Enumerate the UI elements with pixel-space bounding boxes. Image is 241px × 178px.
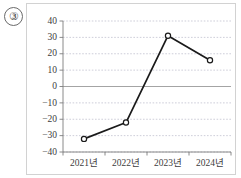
y-axis-ticks-group: 403020100−10−20−30−40	[42, 16, 63, 157]
y-axis-tick-label: 10	[48, 65, 58, 75]
data-point-marker	[165, 33, 170, 38]
x-axis-tick-label: 2024년	[196, 158, 224, 168]
data-series-group	[84, 36, 210, 139]
gridlines-group	[63, 21, 231, 152]
x-axis-tick-label: 2023년	[154, 158, 182, 168]
data-point-marker	[123, 120, 128, 125]
x-axis-tick-label: 2021년	[70, 158, 98, 168]
chart-screenshot: ③ 403020100−10−20−30−40 2021년2022년2023년2…	[0, 0, 241, 178]
y-axis-tick-label: 0	[52, 81, 57, 91]
y-axis-tick-label: −10	[42, 98, 57, 108]
y-axis-tick-label: 40	[48, 16, 58, 26]
y-axis-tick-label: −40	[42, 147, 57, 157]
y-axis-tick-label: 20	[48, 48, 58, 58]
line-chart-svg: 403020100−10−20−30−40 2021년2022년2023년202…	[27, 4, 237, 176]
y-axis-tick-label: 30	[48, 32, 58, 42]
data-line	[84, 36, 210, 139]
y-axis-tick-label: −20	[42, 114, 57, 124]
item-number-badge: ③	[4, 7, 23, 26]
data-point-marker	[207, 58, 212, 63]
plot-area: 403020100−10−20−30−40 2021년2022년2023년202…	[27, 4, 237, 176]
chart-panel: 403020100−10−20−30−40 2021년2022년2023년202…	[26, 3, 236, 175]
data-point-marker	[81, 136, 86, 141]
x-axis-tick-label: 2022년	[112, 158, 140, 168]
y-axis-tick-label: −30	[42, 130, 57, 140]
x-axis-ticks-group: 2021년2022년2023년2024년	[63, 152, 231, 168]
